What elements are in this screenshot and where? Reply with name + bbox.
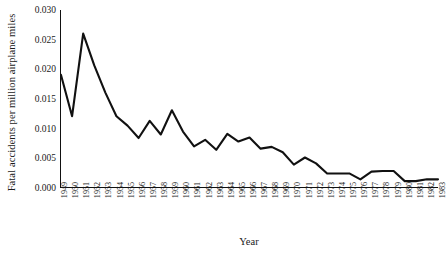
x-tick-label: 1951 (82, 182, 91, 198)
y-axis-tick-labels: 0.0000.0050.0100.0150.0200.0250.030 (20, 0, 58, 205)
series-polyline (61, 34, 438, 182)
y-axis-title: Fatal accidents per million airplane mil… (7, 14, 18, 192)
plot-area (60, 10, 438, 188)
x-tick-label: 1953 (104, 182, 113, 198)
x-tick-label: 1961 (193, 182, 202, 198)
y-tick-label: 0.020 (35, 64, 56, 74)
y-tick-label: 0.005 (35, 153, 56, 163)
x-tick-label: 1959 (171, 182, 180, 198)
y-tick-label: 0.000 (35, 183, 56, 193)
y-axis-title-container: Fatal accidents per million airplane mil… (2, 0, 22, 205)
x-tick-label: 1983 (438, 182, 447, 198)
y-tick-label: 0.015 (35, 94, 56, 104)
x-axis-tick-labels: 1949195019511952195319541955195619571958… (60, 190, 438, 232)
x-tick-label: 1956 (138, 182, 147, 198)
y-tick-label: 0.025 (35, 35, 56, 45)
x-tick-label: 1980 (405, 182, 414, 198)
x-tick-label: 1977 (371, 182, 380, 198)
x-tick-label: 1962 (205, 182, 214, 198)
x-tick-label: 1965 (238, 182, 247, 198)
x-tick-label: 1979 (394, 182, 403, 198)
x-tick-label: 1954 (116, 182, 125, 198)
x-tick-label: 1969 (282, 182, 291, 198)
x-tick-label: 1975 (349, 182, 358, 198)
x-tick-label: 1949 (60, 182, 69, 198)
x-tick-label: 1960 (182, 182, 191, 198)
data-line-svg (61, 10, 438, 187)
x-tick-label: 1963 (216, 182, 225, 198)
x-tick-label: 1982 (427, 182, 436, 198)
x-tick-label: 1970 (293, 182, 302, 198)
x-tick-label: 1971 (305, 182, 314, 198)
x-tick-label: 1952 (93, 182, 102, 198)
x-tick-label: 1978 (382, 182, 391, 198)
x-tick-label: 1968 (271, 182, 280, 198)
x-tick-label: 1955 (127, 182, 136, 198)
x-tick-label: 1957 (149, 182, 158, 198)
x-tick-label: 1967 (260, 182, 269, 198)
x-tick-label: 1958 (160, 182, 169, 198)
x-tick-label: 1964 (227, 182, 236, 198)
x-tick-label: 1976 (360, 182, 369, 198)
y-tick-label: 0.030 (35, 5, 56, 15)
y-tick-label: 0.010 (35, 124, 56, 134)
x-tick-label: 1972 (316, 182, 325, 198)
x-tick-label: 1966 (249, 182, 258, 198)
x-tick-label: 1981 (416, 182, 425, 198)
x-axis-title: Year (60, 236, 438, 247)
x-tick-label: 1974 (338, 182, 347, 198)
x-tick-label: 1950 (71, 182, 80, 198)
x-tick-label: 1973 (327, 182, 336, 198)
